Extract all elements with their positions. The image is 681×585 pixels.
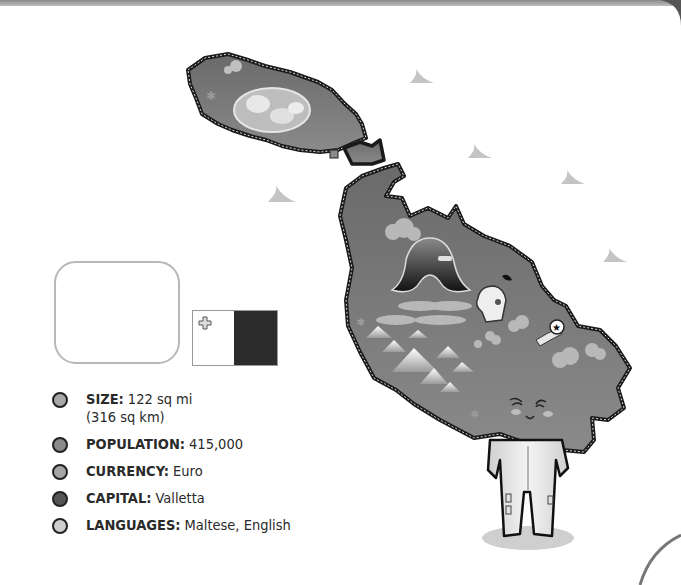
- mascot-body: [482, 440, 574, 550]
- fact-population: POPULATION:415,000: [52, 435, 291, 453]
- locator-map-frame: [54, 261, 180, 364]
- flag-red-half: [234, 311, 277, 365]
- fact-currency: CURRENCY:Euro: [52, 462, 291, 480]
- country-facts-list: SIZE:122 sq mi (316 sq km) POPULATION:41…: [52, 390, 291, 543]
- fact-sub: (316 sq km): [86, 408, 192, 426]
- svg-text:✱: ✱: [206, 89, 216, 103]
- bullet-icon: [52, 491, 68, 507]
- malta-flag: [192, 310, 278, 366]
- george-cross-icon: [198, 316, 212, 330]
- bullet-icon: [52, 392, 68, 408]
- bullet-icon: [52, 518, 68, 534]
- gozo-island: ✱: [188, 54, 366, 152]
- fact-capital: CAPITAL:Valletta: [52, 489, 291, 507]
- page-corner-arc: [640, 535, 681, 585]
- fact-value: 415,000: [189, 436, 243, 452]
- fact-label: LANGUAGES:: [86, 517, 181, 533]
- malta-island: ★ ✱ ✱: [340, 164, 630, 452]
- fact-label: SIZE:: [86, 391, 124, 407]
- fact-label: CURRENCY:: [86, 463, 169, 479]
- page-top-corner: [660, 0, 681, 26]
- fact-label: CAPITAL:: [86, 490, 151, 506]
- palm-icon: ✱: [356, 316, 365, 329]
- fact-value: 122 sq mi: [128, 391, 193, 407]
- flag-white-half: [193, 311, 234, 365]
- fact-value: Euro: [173, 463, 203, 479]
- fact-languages: LANGUAGES:Maltese, English: [52, 516, 291, 534]
- fact-size: SIZE:122 sq mi (316 sq km): [52, 390, 291, 426]
- fact-label: POPULATION:: [86, 436, 185, 452]
- bullet-icon: [52, 437, 68, 453]
- svg-text:✱: ✱: [470, 408, 479, 421]
- bullet-icon: [52, 464, 68, 480]
- fact-value: Maltese, English: [185, 517, 291, 533]
- fact-value: Valletta: [155, 490, 204, 506]
- svg-text:★: ★: [552, 322, 561, 333]
